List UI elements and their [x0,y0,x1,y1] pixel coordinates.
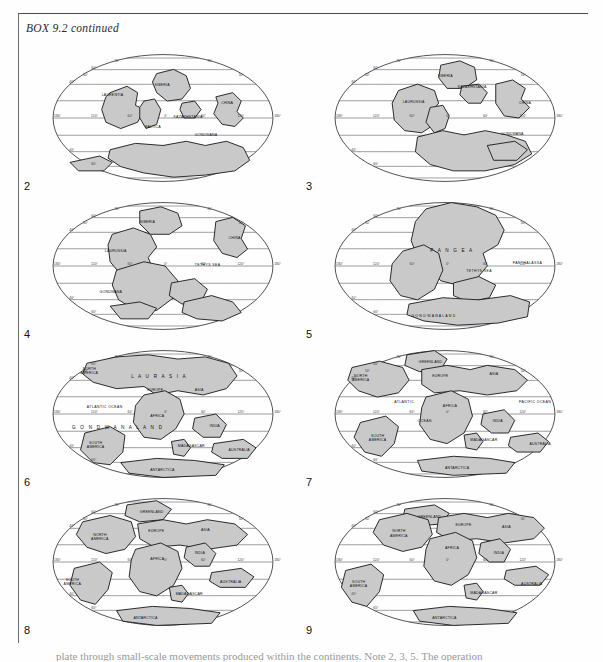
svg-text:40°: 40° [351,80,357,84]
svg-text:60°: 60° [483,114,489,118]
svg-text:70°: 70° [489,503,495,507]
svg-text:40°: 40° [69,80,75,84]
svg-text:50°: 50° [521,73,527,77]
map-label: BALTICA [145,125,161,129]
svg-text:60°: 60° [410,262,416,266]
svg-text:60°: 60° [91,362,97,366]
svg-text:40°: 40° [69,148,75,152]
map-label: LAURENTIA [102,93,124,97]
map-panel-8: 120°60°0°60°120°180°180°60°40°40°60°80°8… [24,488,302,636]
map-label: G O N D W A N A L A N D [72,425,164,430]
svg-text:40°: 40° [69,524,75,528]
map-panel-8: 120°60°0°60°120°180°180°60°40°40°60°80°8… [24,488,302,636]
svg-text:70°: 70° [396,355,402,359]
map-panel-6: 120°60°0°60°120°180°180°60°40°40°60°80°8… [24,340,302,488]
svg-text:50°: 50° [365,221,371,225]
svg-text:80°: 80° [47,192,53,193]
panel-number-5: 5 [306,328,312,340]
svg-text:120°: 120° [238,262,245,266]
map-label: SIBERIA [140,220,156,224]
map-label: AMERICA [64,582,82,586]
svg-text:60°: 60° [483,262,489,266]
map-label: OCEAN [418,419,433,423]
svg-text:70°: 70° [207,207,213,211]
svg-text:40°: 40° [69,376,75,380]
panel-number-2: 2 [24,180,30,192]
svg-text:60°: 60° [91,162,97,166]
landmass [116,606,220,625]
svg-text:50°: 50° [239,517,245,521]
map-label: MADAGASCAR [470,591,497,595]
map-label: ANTARCTICA [445,466,470,470]
map-label: EUROPE [432,374,449,378]
map-label: ASIA [489,372,498,376]
svg-text:50°: 50° [239,221,245,225]
map-label: ATLANTIC OCEAN [87,405,123,409]
map-label: MADAGASCAR [178,444,205,448]
landmass [422,365,528,395]
map-label: ASIA [195,388,204,392]
svg-text:60°: 60° [373,162,379,166]
svg-text:50°: 50° [365,517,371,521]
svg-text:40°: 40° [351,592,357,596]
map-label: AFRICA [150,414,165,418]
svg-text:40°: 40° [351,524,357,528]
svg-text:70°: 70° [114,59,120,63]
box-left-rule [18,13,19,643]
map-panel-7: 120°60°0°60°120°180°180°60°40°40°60°80°8… [306,340,584,488]
svg-text:120°: 120° [238,410,245,414]
svg-text:180°: 180° [54,558,61,562]
map-label: PACIFIC OCEAN [519,400,551,404]
svg-text:180°: 180° [556,114,563,118]
map-panel-4: 120°60°0°60°120°180°180°60°40°40°60°80°8… [24,192,302,340]
svg-text:60°: 60° [373,310,379,314]
svg-text:60°: 60° [128,262,134,266]
body-text-fragment: plate through small-scale movements prod… [56,650,576,661]
map-panel-3: 120°60°0°60°120°180°180°60°40°40°60°80°8… [306,44,584,192]
svg-text:60°: 60° [201,410,207,414]
svg-text:60°: 60° [91,606,97,610]
map-label: ANTARCTICA [133,616,158,620]
map-label: AUSTRALIA [220,580,242,584]
svg-text:50°: 50° [521,517,527,521]
svg-text:70°: 70° [489,207,495,211]
map-label: INDIA [195,551,206,555]
map-panel-5: 120°60°0°60°120°180°180°60°40°40°60°80°8… [306,192,584,340]
svg-text:50°: 50° [521,369,527,373]
svg-text:60°: 60° [410,558,416,562]
map-panel-5: 120°60°0°60°120°180°180°60°40°40°60°80°8… [306,192,584,340]
svg-text:40°: 40° [69,444,75,448]
map-label: LAURUSSIA [105,249,127,253]
map-label: AUSTRALIA [521,582,543,586]
panel-number-3: 3 [306,180,312,192]
map-panel-6: 120°60°0°60°120°180°180°60°40°40°60°80°8… [24,340,302,488]
svg-text:40°: 40° [351,228,357,232]
svg-text:60°: 60° [201,558,207,562]
svg-text:70°: 70° [396,59,402,63]
landmass [496,80,530,118]
map-panel-9: 120°60°0°60°120°180°180°60°40°40°60°80°8… [306,488,584,636]
map-panel-9: 120°60°0°60°120°180°180°60°40°40°60°80°8… [306,488,584,636]
map-label: LAURUSSIA [403,100,425,104]
svg-text:70°: 70° [396,503,402,507]
svg-text:80°: 80° [47,340,53,341]
svg-text:50°: 50° [521,221,527,225]
svg-text:60°: 60° [128,558,134,562]
panel-number-9: 9 [306,624,312,636]
map-label: AMERICA [87,445,105,449]
svg-text:180°: 180° [556,262,563,266]
map-label: ANTARCTICA [150,468,175,472]
svg-text:70°: 70° [489,355,495,359]
svg-text:120°: 120° [91,558,98,562]
box-top-rule [18,13,588,14]
map-label: KAZAKHSTANIA [458,85,487,89]
map-label: AFRICA [445,546,460,550]
landmass [210,568,254,587]
svg-text:120°: 120° [373,262,380,266]
map-label: L A U R A S I A [131,374,187,379]
svg-text:180°: 180° [336,558,343,562]
map-label: ASIA [502,525,511,529]
map-label: GONDWANA [195,133,218,137]
svg-text:50°: 50° [83,221,89,225]
svg-text:120°: 120° [238,558,245,562]
